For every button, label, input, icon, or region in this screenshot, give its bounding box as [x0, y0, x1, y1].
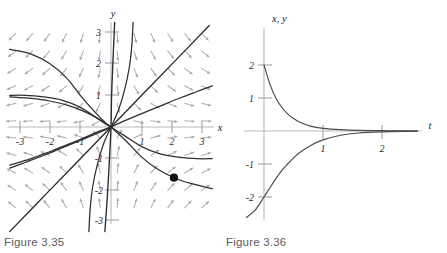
x-tick-label: 2 [170, 136, 175, 147]
figure-solution-curves: 1 2 2 1 -1 -2 t x, y Figure 3.36 [222, 0, 447, 253]
direction-field-arrowhead [174, 120, 177, 123]
xy-tick-label: 1 [249, 93, 254, 104]
y-tick-label: 3 [95, 27, 101, 38]
figure-phase-portrait: -3 -2 -1 1 2 3 3 2 1 -1 -2 -3 x y [0, 0, 225, 253]
initial-condition-dot [170, 174, 178, 182]
figure-caption: Figure 3.35 [4, 236, 64, 248]
xy-tick-label: -1 [246, 159, 254, 170]
solution-curves-plot: 1 2 2 1 -1 -2 t x, y [222, 0, 447, 232]
direction-field-arrowhead [116, 40, 119, 43]
direction-field-arrowhead [116, 181, 119, 184]
x-tick-label: -3 [16, 136, 24, 147]
direction-field-arrowhead [23, 120, 26, 123]
y-axis-label: y [110, 8, 116, 19]
x-tick-label: 3 [199, 136, 205, 147]
t-tick-labels: 1 2 [321, 143, 385, 154]
y-tick-label: -3 [95, 215, 103, 226]
direction-field-arrowhead [6, 120, 9, 123]
trajectory-curve [10, 26, 210, 232]
solution-curve [246, 131, 417, 217]
direction-field-arrowhead [98, 40, 101, 43]
x-tick-label: -2 [46, 136, 54, 147]
axes-group [244, 28, 422, 220]
trajectory-curve [111, 86, 212, 127]
y-tick-label: 2 [96, 58, 101, 69]
t-axis-label: t [429, 120, 433, 131]
direction-field-arrowhead [208, 136, 211, 139]
t-tick-label: 2 [380, 143, 385, 154]
solution-curve [264, 65, 417, 131]
xy-tick-label: -2 [246, 192, 254, 203]
direction-field-arrowhead [40, 120, 43, 123]
direction-field-arrowhead [116, 198, 119, 201]
xy-tick-label: 2 [249, 60, 254, 71]
direction-field-arrowhead [116, 75, 119, 78]
direction-field-arrowhead [191, 120, 194, 123]
t-tick-label: 1 [321, 143, 326, 154]
trajectory-curve [111, 127, 212, 159]
direction-field-arrowhead [6, 136, 9, 139]
xy-axis-label: x, y [271, 13, 287, 24]
solution-curves-group [246, 65, 417, 217]
y-tick-label: -2 [95, 185, 103, 196]
y-tick-label: 1 [96, 90, 101, 101]
figure-caption: Figure 3.36 [226, 236, 286, 248]
figures-row: -3 -2 -1 1 2 3 3 2 1 -1 -2 -3 x y [0, 0, 447, 253]
direction-field-arrowhead [208, 120, 211, 123]
direction-field-arrowhead [116, 58, 119, 61]
phase-portrait-plot: -3 -2 -1 1 2 3 3 2 1 -1 -2 -3 x y [0, 0, 225, 232]
